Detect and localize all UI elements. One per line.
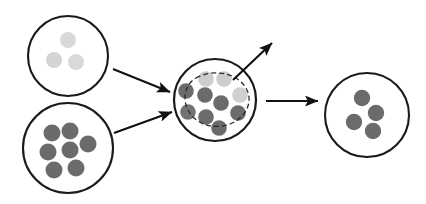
right-circle <box>325 73 409 157</box>
middle-circle <box>174 59 256 141</box>
particle-dot <box>197 87 213 103</box>
top-left-circle-outline <box>28 16 108 96</box>
particle-dot <box>211 120 227 136</box>
particle-dot <box>68 160 85 177</box>
particle-dot <box>68 54 84 70</box>
particle-dot <box>213 95 229 111</box>
particle-dot <box>232 87 248 103</box>
particle-dot <box>62 142 79 159</box>
particle-dot <box>365 123 381 139</box>
right-circle-outline <box>325 73 409 157</box>
particle-dot <box>40 144 57 161</box>
bottom-left-circle <box>23 103 113 193</box>
particle-dot <box>368 105 384 121</box>
particle-dot <box>80 136 97 153</box>
particle-dot <box>60 32 76 48</box>
diagram-canvas <box>0 0 426 204</box>
particle-dot <box>346 114 362 130</box>
diagram-svg <box>0 0 426 204</box>
particle-dot <box>44 125 61 142</box>
particle-dot <box>354 90 370 106</box>
particle-dot <box>46 52 62 68</box>
particle-dot <box>46 162 63 179</box>
particle-dot <box>230 105 246 121</box>
top-left-circle <box>28 16 108 96</box>
particle-dot <box>62 123 79 140</box>
